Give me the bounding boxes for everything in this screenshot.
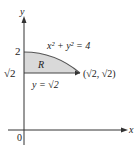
y-tick-2: 2 xyxy=(15,45,21,57)
polar-region-diagram: y x 0 2 √2 R x² + y² = 4 y = √2 (√2, √2) xyxy=(0,0,137,151)
region-r-shape xyxy=(24,52,80,73)
region-label: R xyxy=(37,59,44,70)
x-axis-label: x xyxy=(128,124,134,135)
y-axis-label: y xyxy=(19,6,25,17)
y-tick-sqrt2: √2 xyxy=(4,67,16,79)
line-equation-label: y = √2 xyxy=(31,79,59,90)
point-label: (√2, √2) xyxy=(83,68,116,80)
y-axis-arrow-icon xyxy=(22,16,27,23)
origin-label: 0 xyxy=(17,132,22,143)
circle-equation-label: x² + y² = 4 xyxy=(46,40,90,51)
x-axis-arrow-icon xyxy=(121,128,128,133)
